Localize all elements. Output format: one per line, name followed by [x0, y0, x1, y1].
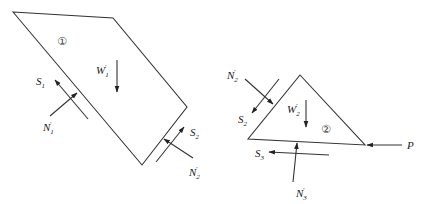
normal-1-label: N1′ [42, 120, 54, 136]
force-p-label: P [406, 139, 414, 151]
free-body-diagram: ① W1′ S1 N1′ S2 N2′ ② W2 [0, 0, 424, 204]
body-1: ① W1′ S1 N1′ S2 N2′ [13, 12, 200, 181]
normal-2-body1-arrow [164, 139, 193, 158]
friction-2-body1-label: S2 [190, 126, 200, 141]
normal-2-body1-label: N2′ [188, 165, 200, 181]
body-1-outline [13, 12, 187, 165]
normal-2-body2-label: N2′ [226, 68, 238, 84]
normal-3-label: N3′ [295, 186, 307, 202]
friction-2-body2-label: S2 [238, 113, 248, 128]
body-1-marker: ① [57, 35, 67, 48]
normal-1-arrow [50, 93, 77, 116]
friction-3-arrow [269, 152, 329, 155]
body-2-marker: ② [321, 123, 331, 136]
body-2: ② W2′ N2′ S2 P S3 N3′ [226, 68, 414, 202]
normal-3-arrow [293, 143, 297, 182]
friction-1-label: S1 [36, 75, 45, 90]
friction-3-label: S3 [255, 147, 265, 162]
